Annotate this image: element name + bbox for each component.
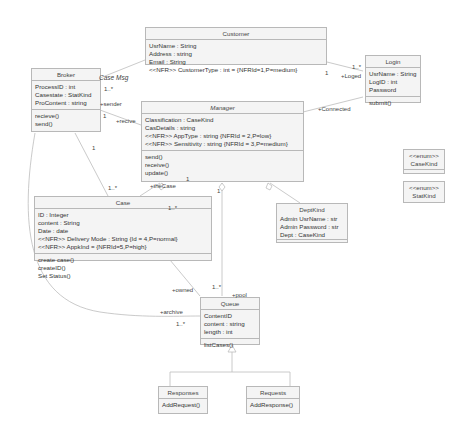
class-deptkind-operations (277, 239, 347, 243)
enum-casekind-body (404, 169, 444, 174)
class-responses-name: Responses (159, 387, 207, 398)
class-manager-name: Manager (142, 102, 303, 113)
class-queue-attributes: ContentID content : string length : int (201, 309, 259, 338)
label-manager-case-mult: 1 (186, 176, 189, 182)
label-sender: +sender (100, 101, 122, 107)
attribute: Admin UsrName : str (277, 215, 347, 223)
class-deptkind-name: DeptKind (277, 204, 347, 215)
attribute: CasDetails : string (145, 124, 300, 132)
class-case-attributes: ID : Integer content : String Date : dat… (35, 208, 211, 253)
operation: create case() (38, 256, 208, 264)
attribute: Admin Password : str (277, 223, 347, 231)
class-broker[interactable]: Broker ProcessID : int Casestate : StatK… (31, 68, 101, 132)
class-login-operations: submit() (366, 96, 420, 109)
operation: listCases() (204, 341, 256, 349)
operation: send() (145, 153, 300, 161)
attribute: Dept : CaseKind (277, 231, 347, 239)
attribute: Classification : CaseKind (145, 116, 300, 124)
label-broker-mult-top: 1..* (104, 86, 113, 92)
label-archive: +archive (160, 309, 183, 315)
enum-casekind-stereotype: <<enum>> (404, 150, 444, 160)
enum-statkind[interactable]: <<enum>> StatKind (403, 181, 445, 203)
enum-casekind[interactable]: <<enum>> CaseKind (403, 149, 445, 174)
label-recive: +recive (116, 118, 136, 124)
label-queue-mult-top: 1..* (212, 284, 221, 290)
label-broker-mult-right: 1 (103, 113, 106, 119)
enum-casekind-name: CaseKind (404, 160, 444, 169)
label-login-mult: 1..* (352, 64, 361, 70)
attribute: ID : Integer (38, 211, 208, 219)
label-loged: +Loged (341, 73, 361, 79)
attribute: <<NFR>> CustomerType : int = {NFRId=1,P=… (149, 66, 323, 74)
class-broker-attributes: ProcessID : int Casestate : StatKind Pro… (32, 80, 100, 109)
class-manager-operations: send() receive() update() (142, 150, 303, 179)
label-case-inner-mult: 1..* (168, 205, 177, 211)
label-thecase: +theCase (150, 183, 176, 189)
attribute: <<NFR>> Delivery Mode : String {Id = 4,P… (38, 235, 208, 243)
attribute: ContentID (204, 312, 256, 320)
operation: recieve() (35, 112, 97, 120)
class-customer[interactable]: Customer UsrName : String Address : stri… (145, 27, 327, 65)
label-connected: +Connected (318, 106, 351, 112)
attribute: Password (369, 86, 417, 94)
class-broker-operations: recieve() send() (32, 109, 100, 130)
class-login[interactable]: Login UsrName : String LogID : int Passw… (365, 55, 421, 103)
class-responses[interactable]: Responses AddRequest() (158, 386, 208, 414)
operation: AddRequest() (162, 401, 204, 409)
attribute: content : string (204, 320, 256, 328)
enum-statkind-name: StatKind (404, 192, 444, 201)
class-queue-operations: listCases() (201, 338, 259, 351)
label-owned: +owned (172, 287, 193, 293)
operation: AddResponse() (250, 401, 296, 409)
label-pool: +pool (232, 292, 247, 298)
enum-statkind-stereotype: <<enum>> (404, 182, 444, 192)
attribute: ProcessID : int (35, 83, 97, 91)
class-requests-name: Requests (247, 387, 299, 398)
class-customer-attributes: UsrName : String Address : string Email … (146, 39, 326, 76)
label-broker-case-mult: 1 (92, 145, 95, 151)
attribute: Address : string (149, 50, 323, 58)
label-case-mult-top: 1..* (108, 185, 117, 191)
attribute: UsrName : String (149, 42, 323, 50)
class-queue-name: Queue (201, 298, 259, 309)
attribute: length : int (204, 328, 256, 336)
attribute: UsrName : String (369, 70, 417, 78)
attribute: LogID : int (369, 78, 417, 86)
class-responses-operations: AddRequest() (159, 398, 207, 411)
operation: Set Status() (38, 272, 208, 280)
class-manager[interactable]: Manager Classification : CaseKind CasDet… (141, 101, 304, 182)
class-login-attributes: UsrName : String LogID : int Password (366, 67, 420, 96)
class-customer-name: Customer (146, 28, 326, 39)
operation: update() (145, 169, 300, 177)
class-broker-name: Broker (32, 69, 100, 80)
class-login-name: Login (366, 56, 420, 67)
attribute: ProContent : string (35, 99, 97, 107)
operation: createID() (38, 264, 208, 272)
class-case[interactable]: Case ID : Integer content : String Date … (34, 196, 212, 261)
label-queue-mult-left: 1..* (176, 321, 185, 327)
attribute: <<NFR>> AppType : string {NFRId = 2,P=lo… (145, 132, 300, 140)
class-case-name: Case (35, 197, 211, 208)
class-requests-operations: AddResponse() (247, 398, 299, 411)
class-requests[interactable]: Requests AddResponse() (246, 386, 300, 414)
attribute: content : String (38, 219, 208, 227)
class-manager-attributes: Classification : CaseKind CasDetails : s… (142, 113, 303, 150)
attribute: Casestate : StatKind (35, 91, 97, 99)
class-queue[interactable]: Queue ContentID content : string length … (200, 297, 260, 345)
class-deptkind[interactable]: DeptKind Admin UsrName : str Admin Passw… (276, 203, 348, 243)
attribute: <<NFR>> Sensitivity : string {NFRId = 3,… (145, 140, 300, 148)
class-case-operations: create case() createID() Set Status() (35, 253, 211, 282)
attribute: Date : date (38, 227, 208, 235)
label-case-msg: Case Msg (99, 74, 128, 81)
label-customer-mult: 1 (325, 70, 328, 76)
operation: submit() (369, 99, 417, 107)
operation: receive() (145, 161, 300, 169)
attribute: Email : String (149, 58, 323, 66)
label-manager-queue-mult: 1 (217, 188, 220, 194)
attribute: <<NFR>> AppkInd = {NFRId=5,P=high} (38, 243, 208, 251)
operation: send() (35, 120, 97, 128)
